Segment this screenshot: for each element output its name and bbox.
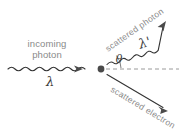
scattering-vertex-dot: [98, 66, 105, 73]
incoming-photon-wave: [8, 67, 85, 71]
scattered-electron-label: scattered electron: [109, 84, 177, 131]
scattered-wavelength-label: λ': [136, 34, 153, 52]
incoming-photon-arrowhead: [74, 65, 83, 72]
theta-angle-label: θ: [116, 53, 123, 66]
incoming-photon-label-line1: incoming: [28, 38, 67, 49]
incoming-wavelength-label: λ: [45, 74, 54, 89]
scattered-photon-label: scattered photon: [103, 6, 165, 54]
scattered-photon-arrowhead: [158, 21, 166, 31]
incoming-photon-label-line2: photon: [32, 49, 62, 60]
diagram-canvas: incoming photon λ scattered photon λ' sc…: [0, 0, 182, 134]
compton-scattering-diagram: incoming photon λ scattered photon λ' sc…: [0, 0, 182, 134]
